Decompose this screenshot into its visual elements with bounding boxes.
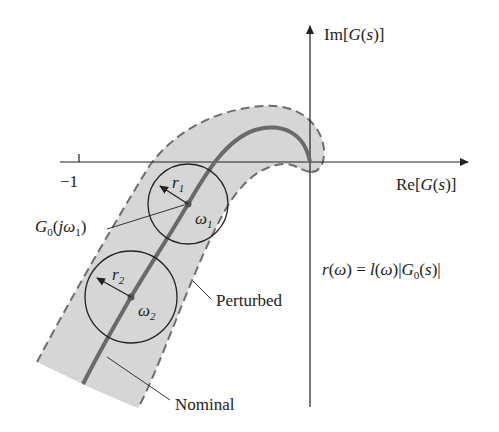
perturbed-label: Perturbed — [216, 291, 283, 310]
uncertainty-band — [37, 106, 324, 408]
leader-perturbed — [193, 281, 211, 299]
g0-jomega1-label: G0(jω1) — [35, 217, 86, 238]
nyquist-diagram: Im[G(s)] Re[G(s)] −1 r1 ω1 r2 ω2 G0(jω1)… — [0, 0, 499, 432]
nominal-label: Nominal — [175, 395, 235, 414]
imag-axis-label: Im[G(s)] — [324, 25, 384, 44]
radius-formula: r(ω) = l(ω)|G0(s)| — [322, 260, 441, 281]
tick-label-minus-one: −1 — [60, 172, 78, 191]
real-axis-label: Re[G(s)] — [396, 175, 456, 194]
